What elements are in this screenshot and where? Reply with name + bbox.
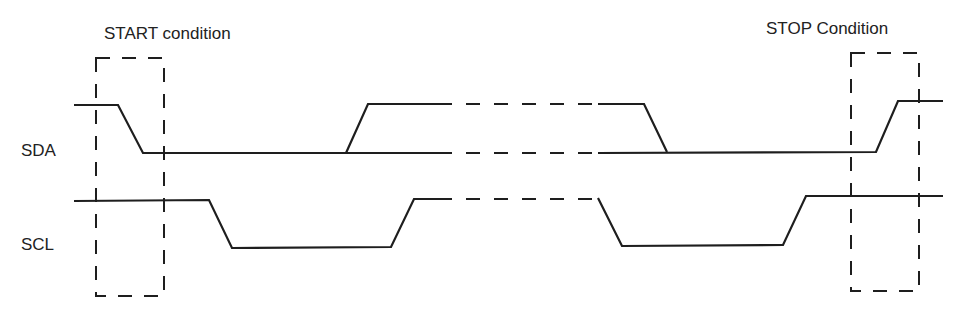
start-condition-box — [96, 58, 164, 296]
waveform-canvas — [0, 0, 958, 310]
stop-condition-box — [851, 53, 919, 291]
timing-diagram: START condition STOP Condition SDA SCL — [0, 0, 958, 310]
sda-waveform — [74, 101, 943, 153]
scl-waveform — [74, 196, 943, 248]
